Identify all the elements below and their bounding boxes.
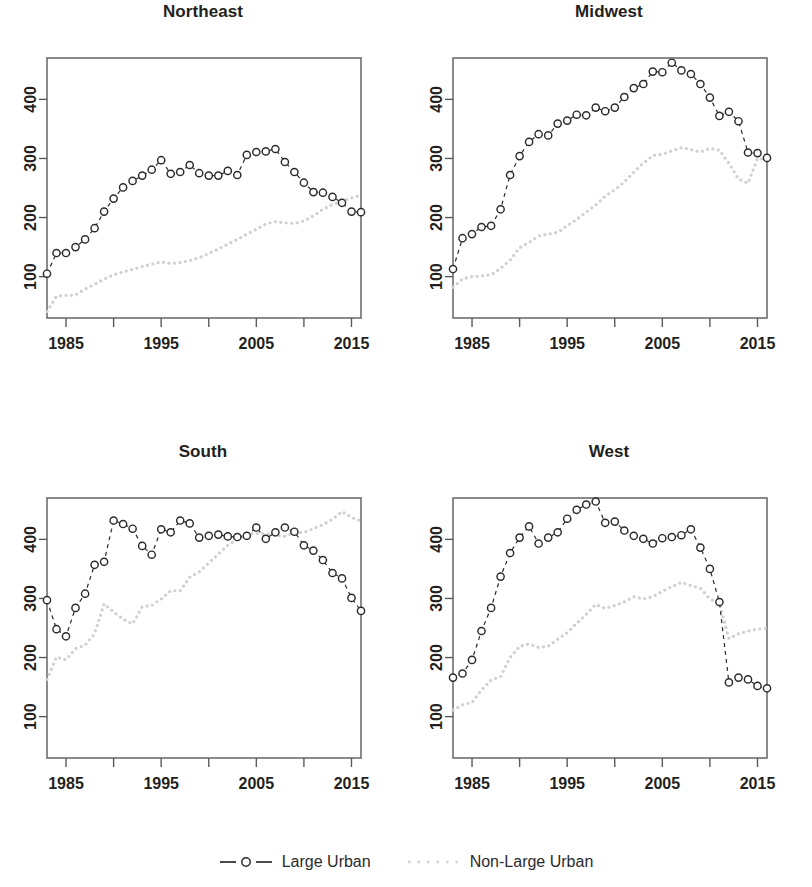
y-axis-tick-label: 300 — [429, 585, 446, 612]
data-point-marker — [272, 529, 279, 536]
data-point-marker — [300, 179, 307, 186]
legend-item-non-large-urban: Non-Large Urban — [407, 853, 594, 871]
data-point-marker — [43, 597, 50, 604]
x-axis-tick-label: 1985 — [48, 335, 84, 352]
data-point-marker — [148, 166, 155, 173]
data-point-marker — [338, 575, 345, 582]
data-point-marker — [592, 104, 599, 111]
data-point-marker — [62, 633, 69, 640]
data-point-marker — [678, 67, 685, 74]
data-point-marker — [668, 533, 675, 540]
data-point-marker — [468, 656, 475, 663]
data-point-marker — [706, 565, 713, 572]
data-point-marker — [53, 626, 60, 633]
y-axis-tick-label: 100 — [429, 263, 446, 290]
data-point-marker — [319, 556, 326, 563]
plot-frame — [453, 498, 767, 758]
x-axis-tick-label: 1995 — [549, 775, 585, 792]
data-point-marker — [554, 529, 561, 536]
plot-frame — [47, 498, 361, 758]
data-point-marker — [602, 519, 609, 526]
data-point-marker — [659, 69, 666, 76]
y-axis-tick-label: 200 — [429, 204, 446, 231]
x-axis-tick-label: 2015 — [334, 335, 370, 352]
data-point-marker — [507, 171, 514, 178]
data-point-marker — [725, 679, 732, 686]
data-point-marker — [281, 158, 288, 165]
data-point-marker — [348, 594, 355, 601]
data-point-marker — [763, 685, 770, 692]
x-axis-tick-label: 2015 — [740, 775, 776, 792]
x-axis-tick-label: 1995 — [143, 335, 179, 352]
data-point-marker — [592, 498, 599, 505]
data-point-marker — [687, 70, 694, 77]
x-axis-tick-label: 1985 — [454, 335, 490, 352]
data-point-marker — [243, 151, 250, 158]
data-point-marker — [725, 108, 732, 115]
y-axis-tick-label: 300 — [23, 585, 40, 612]
data-point-marker — [478, 223, 485, 230]
data-point-marker — [120, 184, 127, 191]
data-point-marker — [630, 532, 637, 539]
data-point-marker — [196, 170, 203, 177]
data-point-marker — [621, 527, 628, 534]
data-point-marker — [640, 535, 647, 542]
data-point-marker — [649, 68, 656, 75]
data-point-marker — [319, 189, 326, 196]
data-point-marker — [564, 515, 571, 522]
x-axis-tick-label: 2015 — [740, 335, 776, 352]
data-point-marker — [583, 112, 590, 119]
data-point-marker — [526, 523, 533, 530]
data-point-marker — [110, 195, 117, 202]
panel-south: South 1002003004001985199520052015 — [0, 440, 406, 860]
data-point-marker — [357, 607, 364, 614]
data-point-marker — [177, 168, 184, 175]
y-axis-tick-label: 400 — [429, 86, 446, 113]
data-point-marker — [564, 117, 571, 124]
data-point-marker — [186, 161, 193, 168]
chart-legend: Large Urban Non-Large Urban — [0, 845, 812, 879]
data-point-marker — [310, 547, 317, 554]
x-axis-tick-label: 1985 — [48, 775, 84, 792]
y-axis-tick-label: 200 — [23, 204, 40, 231]
data-point-marker — [348, 208, 355, 215]
data-point-marker — [129, 177, 136, 184]
data-point-marker — [621, 93, 628, 100]
data-point-marker — [329, 569, 336, 576]
data-point-marker — [72, 244, 79, 251]
data-point-marker — [82, 590, 89, 597]
data-point-marker — [697, 80, 704, 87]
data-point-marker — [649, 540, 656, 547]
data-point-marker — [158, 157, 165, 164]
legend-key-dotted-line-icon — [407, 854, 461, 870]
y-axis-tick-label: 300 — [23, 145, 40, 172]
data-point-marker — [754, 150, 761, 157]
plot-midwest: 1002003004001985199520052015 — [406, 0, 812, 400]
data-point-marker — [735, 674, 742, 681]
data-point-marker — [602, 108, 609, 115]
data-point-marker — [573, 506, 580, 513]
legend-key-line-circle-icon — [219, 854, 273, 870]
data-point-marker — [53, 249, 60, 256]
data-point-marker — [697, 544, 704, 551]
data-point-marker — [583, 501, 590, 508]
data-point-marker — [215, 172, 222, 179]
data-point-marker — [120, 520, 127, 527]
data-point-marker — [281, 524, 288, 531]
data-point-marker — [82, 236, 89, 243]
data-point-marker — [678, 532, 685, 539]
y-axis-tick-label: 100 — [429, 703, 446, 730]
x-axis-tick-label: 1985 — [454, 775, 490, 792]
data-point-marker — [716, 598, 723, 605]
data-point-marker — [573, 111, 580, 118]
y-axis-tick-label: 400 — [429, 526, 446, 553]
data-point-marker — [497, 206, 504, 213]
data-point-marker — [101, 558, 108, 565]
x-axis-tick-label: 2005 — [645, 335, 681, 352]
data-point-marker — [744, 149, 751, 156]
data-point-marker — [139, 172, 146, 179]
data-point-marker — [253, 524, 260, 531]
data-point-marker — [310, 189, 317, 196]
y-axis-tick-label: 300 — [429, 145, 446, 172]
x-axis-tick-label: 1995 — [143, 775, 179, 792]
